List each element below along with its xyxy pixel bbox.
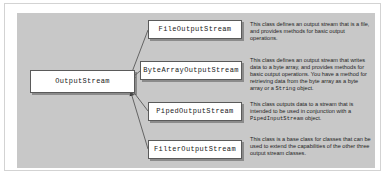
- diagram-screenshot: OutputStream FileOutputStream ByteArrayO…: [0, 0, 389, 178]
- class-label-output-stream: OutputStream: [55, 78, 110, 85]
- inline-code: PipedInputStream: [250, 116, 303, 122]
- class-box-byte-array-output-stream[interactable]: ByteArrayOutputStream: [140, 61, 242, 80]
- class-box-output-stream[interactable]: OutputStream: [30, 70, 135, 93]
- description-byte-array-output-stream: This class defines an output stream that…: [250, 57, 372, 93]
- description-file-output-stream: This class defines an output stream that…: [250, 21, 372, 42]
- class-label-piped-output-stream: PipedOutputStream: [156, 108, 233, 115]
- class-label-byte-array-output-stream: ByteArrayOutputStream: [143, 67, 239, 74]
- diagram-canvas: OutputStream FileOutputStream ByteArrayO…: [17, 13, 375, 168]
- description-piped-output-stream: This class outputs data to a stream that…: [250, 101, 372, 123]
- class-label-filter-output-stream: FilterOutputStream: [154, 146, 236, 153]
- class-box-piped-output-stream[interactable]: PipedOutputStream: [148, 102, 242, 121]
- class-label-file-output-stream: FileOutputStream: [159, 26, 232, 33]
- description-filter-output-stream: This class is a base class for classes t…: [250, 136, 372, 157]
- class-box-file-output-stream[interactable]: FileOutputStream: [148, 20, 242, 39]
- figure-frame: OutputStream FileOutputStream ByteArrayO…: [4, 3, 381, 171]
- class-box-filter-output-stream[interactable]: FilterOutputStream: [148, 140, 242, 159]
- inline-code: String: [276, 86, 296, 92]
